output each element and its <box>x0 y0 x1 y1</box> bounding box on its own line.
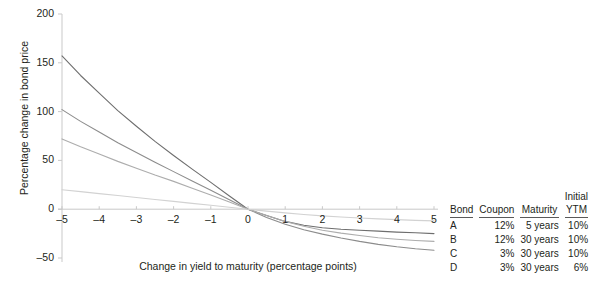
x-tick-label: 1 <box>274 213 296 225</box>
legend-row: B12%30 years10% <box>447 232 591 246</box>
legend-cell-maturity: 5 years <box>517 218 561 232</box>
x-tick-label: –2 <box>163 213 185 225</box>
x-tick-label: 2 <box>311 213 333 225</box>
legend-cell-ytm: 10% <box>562 246 591 260</box>
curve-bond-c <box>62 139 434 241</box>
legend-cell-coupon: 3% <box>476 246 517 260</box>
x-tick-label: –4 <box>88 213 110 225</box>
legend-row: A12%5 years10% <box>447 218 591 232</box>
x-tick-label: 3 <box>349 213 371 225</box>
x-axis-title: Change in yield to maturity (percentage … <box>62 260 434 272</box>
legend-cell-coupon: 12% <box>476 218 517 232</box>
y-tick-label: 150 <box>20 56 54 68</box>
legend-table: Bond Coupon Maturity Initial YTM A12%5 y… <box>447 190 591 274</box>
legend-header-bond: Bond <box>447 190 476 218</box>
y-tick-label: –50 <box>20 251 54 263</box>
legend-header-bond-label: Bond <box>450 203 473 218</box>
x-tick-label: –5 <box>51 213 73 225</box>
y-tick-label: 0 <box>20 202 54 214</box>
legend-header-row: Bond Coupon Maturity Initial YTM <box>447 190 591 218</box>
legend-cell-ytm: 10% <box>562 232 591 246</box>
legend-header-initial-ytm-line1: Initial <box>565 190 588 203</box>
legend-row: C3%30 years10% <box>447 246 591 260</box>
legend-cell-coupon: 3% <box>476 260 517 274</box>
legend-body: A12%5 years10%B12%30 years10%C3%30 years… <box>447 218 591 274</box>
legend-cell-bond: D <box>447 260 476 274</box>
legend-cell-bond: C <box>447 246 476 260</box>
legend-cell-ytm: 6% <box>562 260 591 274</box>
x-tick-label: 0 <box>237 213 259 225</box>
legend-header-maturity-label: Maturity <box>520 203 558 218</box>
legend-header-coupon: Coupon <box>476 190 517 218</box>
x-tick-label: 4 <box>386 213 408 225</box>
y-tick-label: 100 <box>20 105 54 117</box>
legend-header-initial-ytm-line2: YTM <box>565 203 588 218</box>
y-tick-label: 50 <box>20 153 54 165</box>
curve-bond-b <box>62 110 434 251</box>
legend-row: D3%30 years6% <box>447 260 591 274</box>
legend-cell-bond: A <box>447 218 476 232</box>
legend-header-maturity: Maturity <box>517 190 561 218</box>
y-tick-label: 200 <box>20 7 54 19</box>
legend-header-initial-ytm: Initial YTM <box>562 190 591 218</box>
legend-cell-ytm: 10% <box>562 218 591 232</box>
legend-cell-bond: B <box>447 232 476 246</box>
legend-cell-maturity: 30 years <box>517 260 561 274</box>
x-tick-label: –1 <box>200 213 222 225</box>
chart-figure: Percentage change in bond price Change i… <box>0 0 601 287</box>
legend-cell-maturity: 30 years <box>517 232 561 246</box>
x-tick-label: 5 <box>423 213 445 225</box>
legend-cell-coupon: 12% <box>476 232 517 246</box>
legend-header-coupon-label: Coupon <box>479 203 514 218</box>
x-tick-label: –3 <box>125 213 147 225</box>
legend-cell-maturity: 30 years <box>517 246 561 260</box>
